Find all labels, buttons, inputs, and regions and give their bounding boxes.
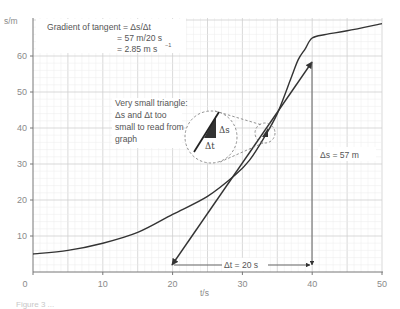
y-tick-label: 10 — [17, 231, 27, 241]
svg-text:= 57 m/20 s: = 57 m/20 s — [117, 33, 162, 43]
x-tick-label: 10 — [98, 279, 108, 289]
x-tick-label: 40 — [307, 279, 317, 289]
axis-ticks: 01020304050102030405060 — [17, 51, 387, 289]
x-tick-label: 50 — [377, 279, 387, 289]
x-axis-label: t/s — [200, 288, 209, 298]
triangle-note: Very small triangle: Δs and Δt too small… — [112, 98, 188, 148]
delta-s-label: Δs = 57 m — [320, 150, 359, 160]
y-tick-label: 60 — [17, 51, 27, 61]
displacement-time-chart: 01020304050102030405060 s/m t/s Δs = 57 … — [0, 0, 400, 309]
y-tick-label: 40 — [17, 123, 27, 133]
x-tick-label: 30 — [237, 279, 247, 289]
y-tick-label: 50 — [17, 87, 27, 97]
svg-text:Very small triangle:: Very small triangle: — [115, 98, 188, 108]
gradient-annotation: Gradient of tangent = Δs/Δt = 57 m/20 s … — [36, 19, 186, 54]
svg-text:Gradient of tangent = Δs/Δt: Gradient of tangent = Δs/Δt — [47, 22, 152, 32]
magnifier-inset: Δs Δt — [185, 111, 275, 163]
svg-text:= 2.85 m s: = 2.85 m s — [117, 44, 157, 54]
inset-delta-t: Δt — [205, 141, 215, 151]
svg-text:small to read from: small to read from — [115, 122, 184, 132]
svg-text:graph: graph — [115, 134, 137, 144]
y-axis-label: s/m — [4, 16, 18, 26]
delta-t-label: Δt = 20 s — [224, 260, 258, 270]
figure-caption: Figure 3 ... — [16, 300, 54, 309]
inset-delta-s: Δs — [219, 125, 230, 135]
svg-text:−1: −1 — [165, 42, 171, 48]
y-tick-label: 30 — [17, 159, 27, 169]
svg-text:Δs and Δt too: Δs and Δt too — [115, 110, 167, 120]
x-tick-label: 20 — [168, 279, 178, 289]
x-tick-label: 0 — [22, 279, 27, 289]
y-tick-label: 20 — [17, 195, 27, 205]
